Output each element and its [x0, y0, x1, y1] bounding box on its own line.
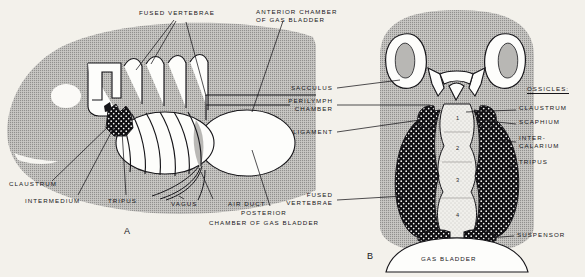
intercalarium-line1: INTER- — [519, 134, 546, 141]
label-tripus-b: TRIPUS — [519, 158, 548, 166]
fused-vertebrae-b-line2: VERTEBRAE — [286, 199, 333, 206]
label-intercalarium: INTER- CALARIUM — [519, 134, 559, 151]
label-intermedium: INTERMEDIUM — [25, 197, 80, 205]
label-suspensor: SUSPENSOR — [517, 231, 565, 239]
perilymph-line2: CHAMBER — [295, 105, 333, 112]
panel-letter-a: A — [124, 226, 131, 236]
label-claustrum-b: CLAUSTRUM — [519, 104, 567, 112]
label-tripus-a: TRIPUS — [108, 197, 137, 205]
anterior-chamber-line2: OF GAS BLADDER — [256, 16, 325, 23]
fused-vertebrae-b-line1: FUSED — [307, 191, 333, 198]
anterior-chamber-line1: ANTERIOR CHAMBER — [256, 8, 337, 15]
label-posterior-chamber-line1: POSTERIOR — [241, 209, 287, 217]
label-claustrum-a: CLAUSTRUM — [9, 180, 57, 188]
label-ligament: LIGAMENT — [233, 128, 333, 136]
vertebra-number-3: 3 — [456, 177, 459, 183]
vertebra-number-4: 4 — [456, 212, 459, 218]
figure-weberian-apparatus: FUSED VERTEBRAE ANTERIOR CHAMBER OF GAS … — [0, 0, 585, 277]
label-fused-vertebrae: FUSED VERTEBRAE — [139, 9, 215, 17]
label-sacculus: SACCULUS — [233, 84, 333, 92]
ossicles-heading-text: OSSICLES: — [527, 85, 569, 94]
label-vagus: VAGUS — [171, 200, 197, 208]
label-gas-bladder: GAS BLADDER — [421, 255, 477, 263]
label-posterior-chamber-line2: CHAMBER OF GAS BLADDER — [209, 219, 319, 227]
illustration-canvas — [0, 0, 585, 277]
label-anterior-chamber-of-gas-bladder: ANTERIOR CHAMBER OF GAS BLADDER — [256, 8, 337, 25]
label-perilymph-chamber: PERILYMPH CHAMBER — [233, 97, 333, 114]
fish-eye — [51, 84, 81, 108]
label-scaphium: SCAPHIUM — [519, 118, 560, 126]
vertebra-number-2: 2 — [456, 145, 459, 151]
label-fused-vertebrae-b: FUSED VERTEBRAE — [233, 191, 333, 208]
label-ossicles-heading: OSSICLES: — [527, 85, 569, 93]
vertebra-number-1: 1 — [456, 115, 459, 121]
panel-letter-b: B — [367, 251, 374, 261]
perilymph-line1: PERILYMPH — [288, 97, 333, 104]
intercalarium-line2: CALARIUM — [519, 142, 559, 149]
